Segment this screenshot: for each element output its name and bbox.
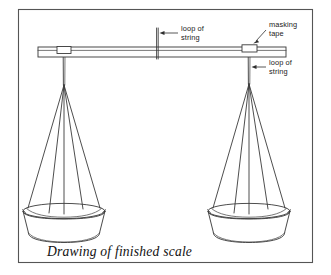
label-masking-tape-line2: tape [269, 29, 284, 38]
scale-diagram-canvas: loop of string masking tape loop of stri… [0, 0, 331, 275]
left-pan-assembly [23, 54, 106, 243]
left-string-outer-right [64, 85, 100, 208]
left-string-inner-left [49, 85, 64, 213]
right-string-inner-left [234, 84, 249, 213]
right-masking-tape [242, 45, 257, 52]
center-loop-leader-arrow [160, 31, 165, 35]
masking-tape-leader-line [256, 30, 266, 41]
right-string-outer-right [249, 84, 285, 208]
label-center-loop-line2: string [181, 33, 200, 42]
scale-diagram-figure: loop of string masking tape loop of stri… [0, 0, 331, 275]
right-pan-assembly [208, 52, 291, 243]
left-masking-tape [57, 47, 71, 54]
right-string-inner-right [249, 84, 268, 209]
label-right-loop-line1: loop of [269, 58, 293, 67]
right-loop-leader-arrow [252, 65, 257, 69]
right-string-outer-left [213, 84, 249, 208]
label-masking-tape-line1: masking [269, 20, 297, 29]
label-center-loop-line1: loop of [181, 24, 205, 33]
label-right-loop-line2: string [269, 67, 288, 76]
figure-caption: Drawing of finished scale [46, 244, 192, 259]
left-string-inner-right [64, 85, 83, 209]
left-string-outer-left [28, 85, 64, 208]
